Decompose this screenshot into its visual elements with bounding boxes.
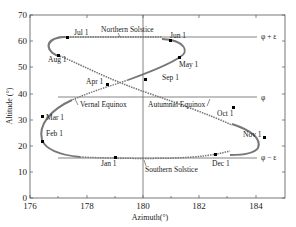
svg-text:Feb 1: Feb 1 bbox=[46, 129, 63, 138]
svg-text:Mar 1: Mar 1 bbox=[46, 113, 64, 122]
svg-text:10: 10 bbox=[18, 167, 28, 177]
svg-text:Northern Solstice: Northern Solstice bbox=[101, 25, 154, 34]
svg-text:Oct 1: Oct 1 bbox=[217, 109, 234, 118]
svg-text:Vernal Equinox: Vernal Equinox bbox=[80, 100, 127, 109]
svg-text:Jul 1: Jul 1 bbox=[74, 28, 89, 37]
svg-text:20: 20 bbox=[18, 141, 28, 151]
svg-text:30: 30 bbox=[18, 115, 28, 125]
svg-text:Nov 1: Nov 1 bbox=[243, 130, 262, 139]
svg-text:Southern Solstice: Southern Solstice bbox=[145, 165, 198, 174]
x-tick-labels: 176 178 180 182 184 bbox=[23, 201, 263, 211]
y-tick-labels: 0 10 20 30 40 50 60 70 bbox=[18, 10, 28, 203]
svg-text:184: 184 bbox=[249, 201, 263, 211]
svg-text:178: 178 bbox=[80, 201, 94, 211]
svg-text:182: 182 bbox=[192, 201, 206, 211]
svg-text:Jun 1: Jun 1 bbox=[170, 31, 186, 40]
svg-text:Sep 1: Sep 1 bbox=[162, 73, 179, 82]
svg-text:70: 70 bbox=[18, 10, 28, 20]
svg-text:Autumnal Equinox: Autumnal Equinox bbox=[148, 100, 206, 109]
svg-text:40: 40 bbox=[18, 89, 28, 99]
svg-text:60: 60 bbox=[18, 36, 28, 46]
x-axis-label: Azimuth(°) bbox=[132, 213, 169, 222]
svg-text:φ − ε: φ − ε bbox=[261, 153, 276, 162]
svg-text:Apr 1: Apr 1 bbox=[86, 77, 104, 86]
reference-line-labels: φ + ε φ φ − ε bbox=[261, 32, 276, 162]
svg-text:Jan 1: Jan 1 bbox=[101, 159, 117, 168]
analemma-curve bbox=[41, 37, 260, 158]
svg-text:176: 176 bbox=[23, 201, 37, 211]
svg-text:180: 180 bbox=[136, 201, 150, 211]
y-axis-label: Altitude (°) bbox=[5, 87, 14, 124]
analemma-chart: 0 10 20 30 40 50 60 70 176 178 180 182 1… bbox=[0, 0, 296, 227]
svg-text:May 1: May 1 bbox=[179, 60, 199, 69]
month-markers bbox=[41, 36, 266, 159]
annotations: Northern Solstice Vernal Equinox Autumna… bbox=[75, 25, 210, 174]
svg-text:φ + ε: φ + ε bbox=[261, 32, 276, 41]
svg-text:50: 50 bbox=[18, 62, 28, 72]
svg-text:φ: φ bbox=[261, 93, 266, 102]
svg-text:Aug 1: Aug 1 bbox=[48, 55, 67, 64]
svg-text:Dec 1: Dec 1 bbox=[212, 159, 230, 168]
